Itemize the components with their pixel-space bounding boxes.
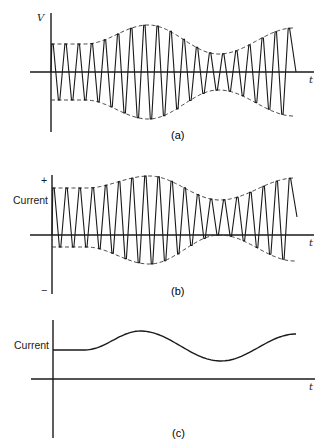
panel-b: + − Current t (b) bbox=[13, 174, 314, 297]
carrier-wave-b bbox=[52, 176, 297, 264]
x-label-a: t bbox=[309, 74, 314, 85]
x-label-b: t bbox=[309, 237, 314, 248]
y-label-a: V bbox=[37, 12, 46, 23]
panel-a: V t (a) bbox=[30, 12, 314, 141]
plus-label: + bbox=[41, 174, 47, 186]
x-label-c: t bbox=[309, 381, 314, 392]
detected-current-curve bbox=[53, 331, 296, 361]
caption-b: (b) bbox=[171, 285, 184, 297]
caption-a: (a) bbox=[171, 129, 184, 141]
panel-c: Current t (c) bbox=[14, 320, 315, 439]
minus-label: − bbox=[41, 284, 47, 296]
y-label-c: Current bbox=[14, 339, 49, 351]
figure-canvas: V t (a) + − Current t (b) Current t (c) bbox=[0, 0, 326, 448]
caption-c: (c) bbox=[172, 427, 185, 439]
y-label-b: Current bbox=[13, 194, 48, 206]
